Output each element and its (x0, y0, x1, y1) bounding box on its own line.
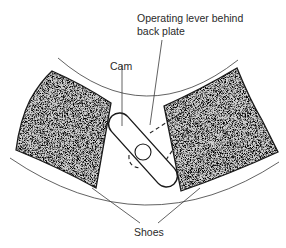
shoes-leader-left (92, 188, 140, 223)
shoes-label: Shoes (134, 226, 164, 238)
shoes-leader-right (158, 188, 200, 223)
lever-leader-line (150, 40, 162, 125)
left-brake-shoe (10, 65, 115, 193)
right-brake-shoe (160, 62, 282, 194)
brake-cam-diagram: Cam Operating lever behind back plate Sh… (0, 0, 286, 248)
lever-label-line1: Operating lever behind (137, 12, 243, 24)
cam-label: Cam (110, 60, 132, 72)
lever-label-line2: back plate (137, 25, 185, 37)
